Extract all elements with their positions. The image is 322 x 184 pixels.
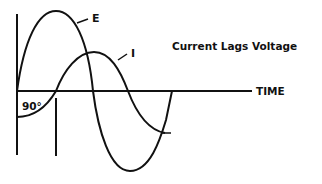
e-label: E	[92, 12, 100, 25]
i-leader-line	[118, 54, 127, 60]
time-axis-label: TIME	[256, 85, 285, 97]
phase-diagram: E I Current Lags Voltage TIME 90°	[0, 0, 322, 184]
e-leader-line	[77, 19, 88, 23]
diagram-title: Current Lags Voltage	[172, 40, 297, 52]
i-label: I	[131, 47, 135, 60]
phase-angle-label: 90°	[22, 100, 42, 112]
current-curve-i	[17, 52, 165, 133]
